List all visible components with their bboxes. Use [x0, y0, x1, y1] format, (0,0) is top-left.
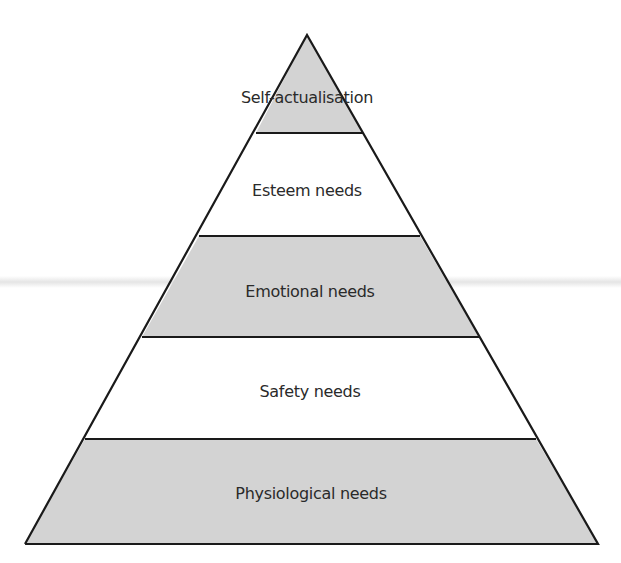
label-safety-needs: Safety needs	[260, 382, 361, 401]
label-esteem-needs: Esteem needs	[252, 181, 362, 200]
label-emotional-needs: Emotional needs	[245, 282, 374, 301]
label-physiological-needs: Physiological needs	[235, 484, 386, 503]
label-self-actualisation: Self-actualisation	[241, 88, 373, 107]
level-self-actualisation	[256, 35, 363, 133]
